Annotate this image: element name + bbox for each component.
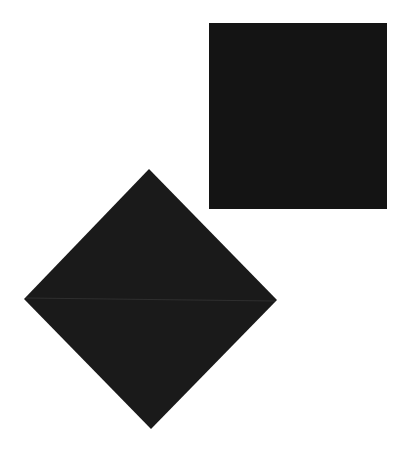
black-square bbox=[209, 23, 387, 209]
drawing-canvas bbox=[0, 0, 408, 454]
